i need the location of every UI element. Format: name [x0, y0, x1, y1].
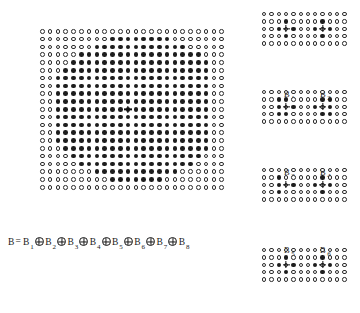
cluster-dot-filled	[277, 263, 281, 267]
lattice-dot-filled	[95, 162, 100, 167]
cluster-dot-open	[299, 248, 303, 252]
lattice-dot-open	[180, 37, 185, 42]
lattice-dot-filled	[141, 107, 146, 112]
lattice-dot-filled	[173, 76, 178, 81]
cluster-dot-open	[335, 168, 339, 172]
cluster-dot-open	[313, 119, 317, 123]
cluster-dot-open	[342, 168, 346, 172]
lattice-dot-filled	[102, 52, 107, 57]
cluster-dot-open	[320, 41, 324, 45]
lattice-dot-filled	[188, 68, 193, 73]
lattice-dot-filled	[204, 107, 209, 112]
lattice-dot-open	[56, 162, 61, 167]
lattice-dot-filled	[149, 130, 154, 135]
lattice-dot-open	[56, 37, 61, 42]
cluster-dot-open	[299, 255, 303, 259]
lattice-dot-open	[40, 84, 45, 89]
lattice-dot-open	[56, 154, 61, 159]
lattice-dot-filled	[173, 162, 178, 167]
lattice-dot-open	[212, 45, 217, 50]
lattice-dot-open	[48, 60, 53, 65]
lattice-dot-filled	[196, 60, 201, 65]
lattice-dot-open	[212, 115, 217, 120]
cluster-origin-cross-marker	[319, 261, 326, 268]
lattice-dot-open	[95, 37, 100, 42]
lattice-dot-open	[48, 84, 53, 89]
lattice-dot-open	[63, 154, 68, 159]
lattice-dot-filled	[141, 130, 146, 135]
lattice-dot-filled	[118, 84, 123, 89]
cluster-dot-open	[328, 255, 332, 259]
cluster-dot-open	[299, 112, 303, 116]
lattice-dot-filled	[126, 45, 131, 50]
cluster-dot-open	[335, 34, 339, 38]
cluster-dot-filled	[277, 112, 281, 116]
lattice-dot-open	[219, 84, 224, 89]
lattice-dot-filled	[63, 91, 68, 96]
lattice-dot-filled	[126, 68, 131, 73]
lattice-dot-filled	[110, 130, 115, 135]
cluster-dot-open	[335, 248, 339, 252]
lattice-dot-filled	[188, 52, 193, 57]
oplus-icon	[79, 237, 88, 246]
lattice-dot-filled	[149, 60, 154, 65]
lattice-dot-filled	[173, 52, 178, 57]
lattice-dot-filled	[102, 146, 107, 151]
cluster-dot-filled	[291, 27, 295, 31]
lattice-dot-open	[204, 29, 209, 34]
lattice-dot-open	[134, 185, 139, 190]
cluster-dot-filled	[291, 183, 295, 187]
lattice-dot-filled	[95, 115, 100, 120]
lattice-dot-open	[48, 76, 53, 81]
formula-term-b3: B3	[68, 237, 78, 247]
lattice-dot-filled	[173, 84, 178, 89]
lattice-dot-filled	[141, 45, 146, 50]
lattice-dot-filled	[102, 68, 107, 73]
lattice-dot-open	[56, 177, 61, 182]
lattice-dot-filled	[173, 154, 178, 159]
cluster-dot-open	[313, 197, 317, 201]
lattice-dot-open	[212, 99, 217, 104]
cluster-dot-open	[342, 112, 346, 116]
lattice-dot-open	[48, 29, 53, 34]
lattice-dot-open	[165, 185, 170, 190]
lattice-dot-filled	[110, 123, 115, 128]
cluster-dot-open	[299, 270, 303, 274]
lattice-dot-filled	[110, 45, 115, 50]
lattice-dot-filled	[63, 123, 68, 128]
lattice-dot-filled	[165, 91, 170, 96]
lattice-dot-open	[102, 37, 107, 42]
cluster-dot-open	[342, 119, 346, 123]
cluster-dot-open	[291, 90, 295, 94]
lattice-dot-open	[102, 29, 107, 34]
lattice-dot-filled	[110, 68, 115, 73]
lattice-dot-filled	[95, 138, 100, 143]
lattice-dot-filled	[188, 91, 193, 96]
cluster-dot-open	[299, 34, 303, 38]
lattice-dot-filled	[126, 130, 131, 135]
lattice-dot-filled	[95, 107, 100, 112]
lattice-dot-filled	[180, 60, 185, 65]
oplus-icon	[146, 237, 155, 246]
lattice-dot-filled	[126, 52, 131, 57]
lattice-dot-filled	[110, 138, 115, 143]
lattice-dot-filled	[149, 154, 154, 159]
lattice-dot-filled	[180, 162, 185, 167]
lattice-dot-filled	[141, 146, 146, 151]
cluster-dot-open	[342, 190, 346, 194]
cluster-origin-cross-marker	[283, 181, 290, 188]
cluster-dot-open	[313, 277, 317, 281]
lattice-dot-filled	[110, 76, 115, 81]
cluster-dot-filled	[284, 97, 288, 101]
cluster-dot-open	[299, 19, 303, 23]
lattice-dot-filled	[71, 99, 76, 104]
lattice-dot-open	[219, 185, 224, 190]
lattice-dot-filled	[118, 154, 123, 159]
lattice-dot-filled	[56, 99, 61, 104]
cluster-dot-open	[299, 263, 303, 267]
lattice-dot-filled	[87, 138, 92, 143]
lattice-dot-filled	[118, 76, 123, 81]
lattice-dot-filled	[134, 146, 139, 151]
lattice-dot-open	[204, 37, 209, 42]
cluster-dot-filled	[320, 255, 324, 259]
